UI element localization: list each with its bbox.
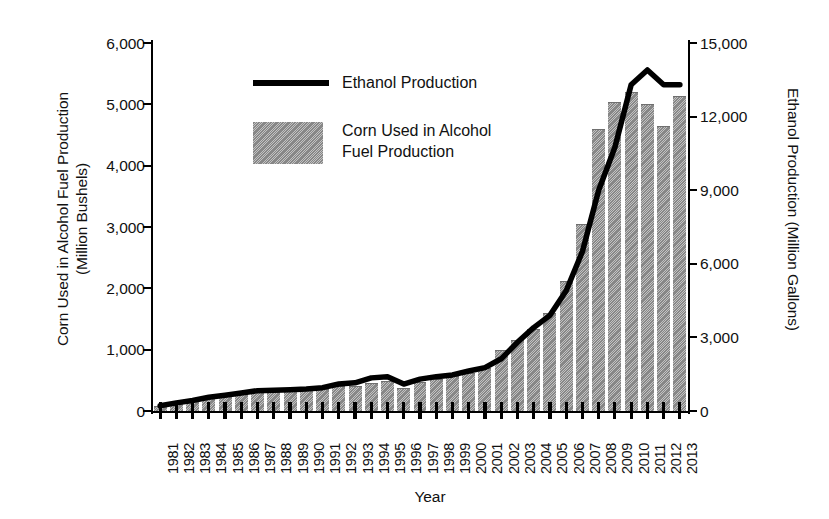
y-axis-left-ticklabel: 6,000 [106,36,145,52]
chart-figure: Corn Used in Alcohol Fuel Production (Mi… [0,0,829,519]
x-axis-ticklabel: 2002 [507,443,522,474]
x-axis-ticklabel: 1986 [247,443,262,474]
y-axis-right-line [688,40,690,414]
x-axis-ticklabel: 1982 [182,443,197,474]
x-axis-ticklabel: 1993 [361,443,376,474]
y-axis-left-tickmark [143,226,152,228]
plot-area [152,43,688,411]
y-axis-right-ticklabel: 6,000 [700,256,739,272]
x-axis-ticklabel: 1999 [458,443,473,474]
legend-line-swatch-icon [253,80,329,86]
x-axis-ticklabel: 2004 [539,443,554,474]
x-axis-ticklabel: 1987 [263,443,278,474]
x-axis-ticklabel: 2003 [523,443,538,474]
y-axis-right-ticklabel: 3,000 [700,330,739,346]
x-axis-ticklabel: 2007 [588,443,603,474]
y-axis-left-ticklabel: 3,000 [106,220,145,236]
x-axis-ticklabel: 2009 [620,443,635,474]
x-axis-title: Year [330,487,530,506]
y-axis-left-ticklabel: 4,000 [106,158,145,174]
x-axis-ticklabel: 1989 [296,443,311,474]
x-axis-ticklabel: 1998 [442,443,457,474]
y-axis-left-tickmark [143,287,152,289]
y-axis-left-ticklabel: 5,000 [106,97,145,113]
y-axis-right-tickmark [688,42,697,44]
x-axis-ticklabel: 2005 [555,443,570,474]
x-axis-ticklabel: 2011 [653,444,668,474]
y-axis-right-ticklabels: 03,0006,0009,00012,00015,000 [700,0,780,519]
x-axis-ticklabel: 1984 [214,443,229,474]
x-axis-ticklabel: 1983 [198,443,213,474]
x-axis-ticklabel: 2012 [669,443,684,474]
y-axis-left-tickmark [143,165,152,167]
legend-label-ethanol-production: Ethanol Production [342,72,477,93]
x-axis-ticklabels: 1981198219831984198519861987198819891990… [152,414,688,484]
y-axis-left-ticklabel: 2,000 [106,281,145,297]
y-axis-right-tickmark [688,116,697,118]
x-axis-ticklabel: 2006 [572,443,587,474]
y-axis-right-tickmark [688,336,697,338]
y-axis-right-ticklabel: 12,000 [700,109,747,125]
y-axis-left-tickmark [143,42,152,44]
y-axis-left-ticklabel: 1,000 [106,342,145,358]
x-axis-ticklabel: 2001 [490,443,505,474]
y-axis-right-ticklabel: 15,000 [700,36,747,52]
x-axis-ticklabel: 2010 [637,443,652,474]
x-axis-ticklabel: 1991 [328,443,343,474]
y-axis-right-ticklabel: 0 [700,404,709,420]
x-axis-ticklabel: 1994 [377,443,392,474]
x-axis-ticklabel: 1985 [231,443,246,474]
y-axis-left-ticklabels: 01,0002,0003,0004,0005,0006,000 [70,0,145,519]
y-axis-left-tickmark [143,410,152,412]
x-axis-ticklabel: 1996 [409,443,424,474]
x-axis-ticklabel: 2013 [685,443,700,474]
line-series-ethanol-production [152,43,688,411]
x-axis-ticklabel: 1981 [166,443,181,474]
y-axis-right-ticklabel: 9,000 [700,183,739,199]
y-axis-right-tickmark [688,189,697,191]
y-axis-right-title: Ethanol Production (Million Gallons) [784,30,803,390]
x-axis-ticklabel: 2008 [604,443,619,474]
x-axis-ticklabel: 1997 [426,443,441,474]
legend-item-ethanol-production: Ethanol Production [253,72,477,93]
x-axis-ticklabel: 2000 [474,443,489,474]
y-axis-right-tickmark [688,410,697,412]
x-axis-ticklabel: 1992 [344,443,359,474]
legend-item-corn-used: Corn Used in Alcohol Fuel Production [253,120,491,164]
x-axis-ticklabel: 1990 [312,443,327,474]
y-axis-left-tickmark [143,349,152,351]
x-axis-ticklabel: 1995 [393,443,408,474]
legend-bar-swatch-icon [253,122,323,164]
legend-label-corn-used: Corn Used in Alcohol Fuel Production [342,120,491,162]
y-axis-left-tickmark [143,103,152,105]
x-axis-ticklabel: 1988 [279,443,294,474]
y-axis-right-tickmark [688,263,697,265]
